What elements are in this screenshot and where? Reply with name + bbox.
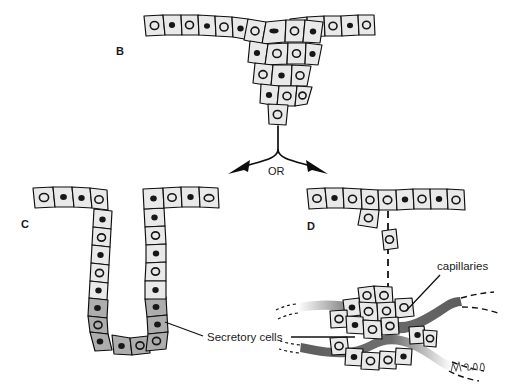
gland-development-figure: B xyxy=(0,0,511,388)
figure-canvas: B xyxy=(0,0,511,388)
panel-c-epithelium-right xyxy=(143,187,219,209)
panel-b-letter: B xyxy=(116,45,124,57)
panel-c-epithelium-left xyxy=(33,187,108,210)
capillaries-label: capillaries xyxy=(437,260,488,272)
panel-c-letter: C xyxy=(21,218,29,230)
or-label: OR xyxy=(268,165,285,177)
panel-c-duct-wall-right xyxy=(144,208,166,299)
secretory-cells-label: Secretory cells xyxy=(207,331,283,343)
panel-d-migrating-cell xyxy=(382,229,398,250)
panel-c-secretory-cells-right xyxy=(145,297,168,351)
panel-d-letter: D xyxy=(307,220,315,232)
